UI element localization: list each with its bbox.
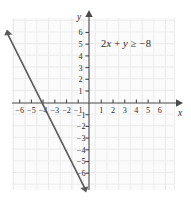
x-tick-label: 3	[123, 106, 127, 115]
y-tick-label: −1	[77, 111, 86, 120]
coordinate-plane: −6 −5 −4 −3 −2 −1 1 2 3 4 5 6 6 5 4 3 2 …	[0, 0, 191, 200]
x-tick-label: −6	[15, 106, 24, 115]
y-axis-label: y	[76, 12, 82, 22]
y-tick-label: 5	[78, 40, 82, 49]
inequality-annotation: 2x + y ≥ −8	[101, 38, 151, 49]
y-tick-label: 4	[78, 52, 82, 61]
x-tick-label: 2	[111, 106, 115, 115]
x-tick-label: −2	[62, 106, 71, 115]
x-tick-label: 6	[158, 106, 162, 115]
y-tick-label: 2	[78, 75, 82, 84]
x-tick-label: 1	[99, 106, 103, 115]
x-tick-label: −5	[27, 106, 36, 115]
x-tick-label: −3	[50, 106, 59, 115]
y-tick-label: 6	[78, 28, 82, 37]
y-tick-label: 3	[78, 64, 82, 73]
annotation-relation: ≥	[128, 38, 140, 49]
y-tick-label: 1	[78, 87, 82, 96]
x-tick-label: 5	[146, 106, 150, 115]
y-tick-label: −2	[77, 122, 86, 131]
annotation-plus: +	[111, 38, 123, 49]
x-tick-label: 4	[134, 106, 138, 115]
y-tick-label: −5	[77, 157, 86, 166]
annotation-constant: −8	[140, 38, 152, 49]
inequality-graph-figure: −6 −5 −4 −3 −2 −1 1 2 3 4 5 6 6 5 4 3 2 …	[0, 0, 191, 200]
x-axis-label: x	[177, 108, 183, 118]
y-tick-label: −4	[77, 146, 86, 155]
y-tick-label: −3	[77, 134, 86, 143]
